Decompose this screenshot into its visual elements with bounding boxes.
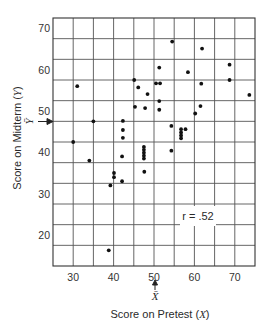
- y-tick-label: 60: [38, 64, 50, 76]
- data-point: [157, 99, 161, 103]
- data-point: [158, 81, 162, 85]
- data-point: [186, 70, 190, 74]
- tick-labels: 3040506070203040506070: [38, 22, 240, 283]
- data-point: [169, 149, 173, 153]
- data-point: [75, 84, 79, 88]
- data-point: [121, 119, 125, 123]
- x-tick-label: 30: [67, 271, 79, 283]
- mean-x-label: X̄: [151, 290, 160, 302]
- y-tick-label: 30: [38, 188, 50, 200]
- data-point: [200, 47, 204, 51]
- correlation-annotation: r = .52: [180, 206, 216, 226]
- data-point: [157, 66, 161, 70]
- x-tick-label: 60: [189, 271, 201, 283]
- mean-y-arrow-icon: [38, 119, 53, 125]
- data-point: [121, 136, 125, 140]
- data-point: [108, 184, 112, 188]
- data-point: [120, 155, 124, 159]
- data-point: [71, 140, 75, 144]
- data-point: [112, 175, 116, 179]
- data-point: [157, 108, 161, 112]
- data-point: [228, 63, 232, 67]
- data-point: [184, 127, 188, 131]
- data-point: [92, 119, 96, 123]
- x-axis-title: Score on Pretest (X): [110, 308, 209, 320]
- data-point: [169, 124, 173, 128]
- y-tick-label: 50: [38, 105, 50, 117]
- data-point: [133, 105, 137, 109]
- data-point: [132, 78, 136, 82]
- y-tick-label: 40: [38, 146, 50, 158]
- mean-y-label: Ȳ: [23, 117, 35, 125]
- data-point: [170, 40, 174, 44]
- y-axis-title: Score on Midterm (Y): [11, 86, 23, 189]
- mean-markers: Ȳ X̄: [23, 117, 160, 302]
- data-point: [120, 179, 124, 183]
- data-point: [146, 92, 150, 96]
- data-point: [199, 104, 203, 108]
- data-point: [142, 157, 146, 161]
- y-tick-label: 20: [38, 229, 50, 241]
- data-point: [107, 248, 111, 252]
- data-point: [179, 127, 183, 131]
- data-point: [143, 106, 147, 110]
- data-point: [247, 93, 251, 97]
- x-tick-label: 70: [229, 271, 241, 283]
- data-point: [112, 171, 116, 175]
- data-point: [136, 86, 140, 90]
- scatter-plot: r = .52 3040506070203040506070 Ȳ X̄ Scor…: [0, 0, 269, 325]
- r-value: r = .52: [182, 210, 214, 222]
- data-point: [228, 78, 232, 82]
- data-point: [121, 128, 125, 132]
- x-tick-label: 40: [108, 271, 120, 283]
- data-point: [154, 81, 158, 85]
- data-points: [71, 40, 251, 253]
- data-point: [142, 170, 146, 174]
- data-point: [199, 82, 203, 86]
- grid: [53, 18, 255, 266]
- y-tick-label: 70: [38, 22, 50, 34]
- data-point: [179, 136, 183, 140]
- data-point: [193, 112, 197, 116]
- data-point: [87, 159, 91, 163]
